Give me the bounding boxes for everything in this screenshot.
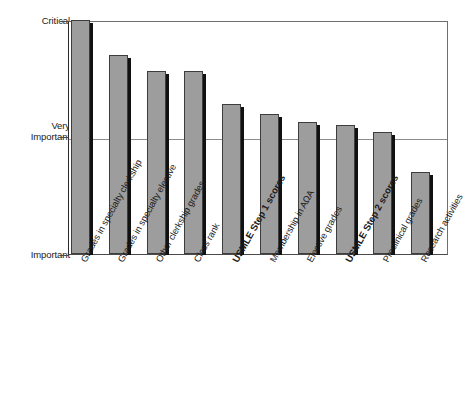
bar-face (147, 71, 166, 254)
y-axis-tick-important (60, 255, 69, 256)
bar (222, 104, 241, 254)
bar-face (336, 125, 355, 254)
bar (71, 20, 90, 254)
bar (109, 55, 128, 254)
bar (336, 125, 355, 254)
y-axis-label-very-important: Very Important (31, 120, 70, 142)
bar-face (184, 71, 203, 254)
bar-chart-figure: Critical Very Important Important Grades… (0, 0, 463, 410)
bar-face (109, 55, 128, 254)
bar (184, 71, 203, 254)
bar (147, 71, 166, 254)
bar-face (71, 20, 90, 254)
bar-face (222, 104, 241, 254)
